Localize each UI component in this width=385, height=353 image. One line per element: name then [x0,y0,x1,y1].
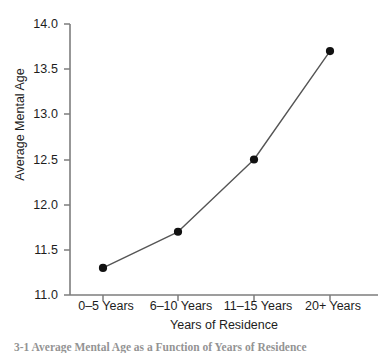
data-point [174,228,182,236]
data-point-markers [99,47,334,272]
y-axis-tick-labels: 14.0 13.5 13.0 12.5 12.0 11.5 11.0 [0,0,58,352]
x-tick-label: 20+ Years [305,300,361,313]
data-point [250,155,258,163]
x-tick-label: 11–15 Years [224,300,293,313]
y-axis-ticks [64,24,70,295]
y-tick-label: 11.5 [14,244,58,256]
x-tick-label: 6–10 Years [150,300,213,313]
x-tick-label: 0–5 Years [78,300,134,313]
x-axis-title: Years of Residence [70,319,378,332]
y-tick-label: 14.0 [14,18,58,30]
data-point [99,264,107,272]
figure-caption: 3-1 Average Mental Age as a Function of … [14,341,385,353]
y-tick-label: 11.0 [14,289,58,301]
y-axis-title: Average Mental Age [14,45,27,205]
x-axis-ticks [103,295,330,301]
data-series-line [103,51,330,268]
data-point [326,47,334,55]
